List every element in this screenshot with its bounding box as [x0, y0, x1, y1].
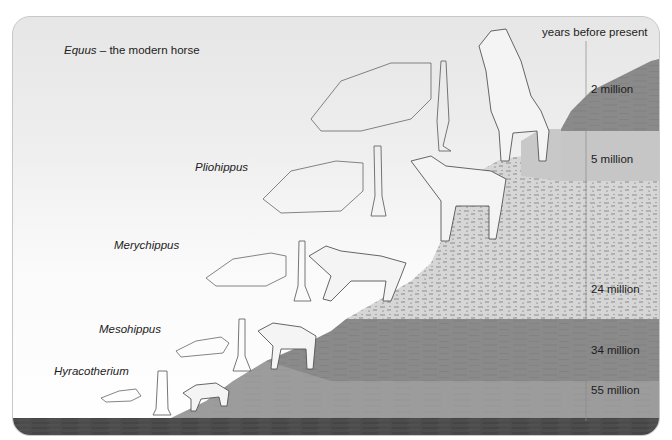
time-marker-34m: 34 million	[591, 344, 640, 356]
axis-title: years before present	[542, 26, 647, 38]
species-name: Pliohippus	[195, 161, 248, 173]
diagram-panel: Equus – the modern horse Pliohippus Mery…	[12, 16, 660, 436]
species-label-equus: Equus – the modern horse	[64, 44, 200, 56]
stratum-2m	[561, 59, 659, 131]
time-marker-24m: 24 million	[591, 283, 640, 295]
species-name: Mesohippus	[99, 323, 161, 335]
species-label-pliohippus: Pliohippus	[195, 161, 248, 173]
time-marker-2m: 2 million	[591, 83, 633, 95]
species-label-merychippus: Merychippus	[114, 239, 179, 251]
time-marker-55m: 55 million	[591, 384, 640, 396]
time-marker-5m: 5 million	[591, 153, 633, 165]
species-name: Merychippus	[114, 239, 179, 251]
species-name: Hyracotherium	[54, 365, 129, 377]
species-label-mesohippus: Mesohippus	[99, 323, 161, 335]
species-name: Equus	[64, 44, 97, 56]
species-suffix: – the modern horse	[97, 44, 200, 56]
bedrock-layer	[13, 418, 659, 435]
species-label-hyracotherium: Hyracotherium	[54, 365, 129, 377]
